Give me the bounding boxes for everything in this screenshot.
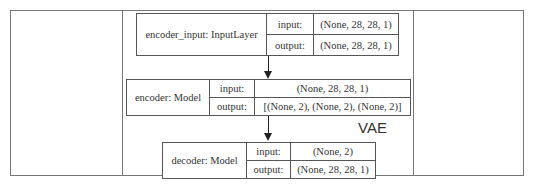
output-shape: (None, 28, 28, 1) [314, 35, 398, 55]
input-key: input: [210, 80, 254, 98]
input-shape: (None, 2) [291, 143, 375, 161]
table-divider-left [122, 10, 123, 176]
output-shape: [(None, 2), (None, 2), (None, 2)] [255, 98, 410, 115]
input-key: input: [267, 14, 313, 35]
output-key: output: [210, 98, 254, 115]
output-key: output: [247, 161, 290, 178]
arrowhead-icon [264, 133, 272, 141]
edge-line-2 [268, 116, 269, 134]
node-label: decoder: Model [163, 143, 247, 178]
node-label: encoder_input: InputLayer [137, 14, 267, 55]
input-key: input: [247, 143, 290, 161]
table-divider-right [413, 10, 414, 176]
node-decoder: decoder: Model input: output: (None, 2) … [162, 142, 376, 179]
node-encoder: encoder: Model input: output: (None, 28,… [126, 79, 411, 116]
node-encoder-input: encoder_input: InputLayer input: output:… [136, 13, 399, 56]
arrowhead-icon [264, 71, 272, 79]
edge-line-1 [268, 56, 269, 72]
output-key: output: [267, 35, 313, 55]
output-shape: (None, 28, 28, 1) [291, 161, 375, 178]
node-label: encoder: Model [127, 80, 210, 115]
input-shape: (None, 28, 28, 1) [314, 14, 398, 35]
diagram-title: VAE [358, 119, 387, 136]
input-shape: (None, 28, 28, 1) [255, 80, 410, 98]
